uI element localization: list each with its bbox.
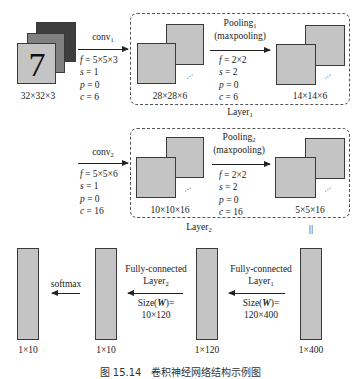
- layer2-pool-size: 5×5×16: [295, 206, 325, 216]
- fc2-label: Fully-connected Layer2: [125, 264, 187, 289]
- conv1-params: f = 5×5×3 s = 1 p = 0 c = 6: [80, 54, 118, 104]
- layer1-pool-size: 14×14×6: [293, 92, 327, 102]
- conv2-arrow: [78, 163, 128, 164]
- layer2-label: Layer2: [186, 223, 211, 234]
- pool1-params: f = 2×2 s = 2 p = 0 c = 6: [219, 54, 247, 104]
- pool2-label: Pooling2: [223, 133, 256, 144]
- fc1-arrow: [229, 293, 285, 294]
- fc1-output-vector: [196, 248, 218, 340]
- figure-caption: 图 15.14 卷积神经网络结构示例图: [100, 364, 262, 379]
- layer1-pool-map-front: [276, 44, 316, 85]
- flattened-vector-size: 1×400: [299, 346, 323, 356]
- fc2-output-size: 1×10: [96, 346, 116, 356]
- fc1-weight-size: Size(W)= 120×400: [243, 298, 280, 321]
- softmax-label: softmax: [51, 280, 82, 290]
- pool2-params: f = 2×2 s = 2 p = 0 c = 16: [219, 169, 247, 219]
- layer1-label: Layer1: [227, 108, 252, 119]
- pool1-type: (maxpooling): [214, 32, 266, 42]
- layer1-conv-size: 28×28×6: [153, 92, 187, 102]
- softmax-arrow: [52, 293, 80, 294]
- fc1-label: Fully-connected Layer1: [230, 264, 292, 289]
- layer2-conv-size: 10×10×16: [150, 206, 189, 216]
- conv1-label: conv1: [92, 33, 114, 44]
- fc2-weight-size: Size(W)= 10×120: [138, 298, 175, 321]
- input-digit: 7: [29, 48, 46, 82]
- pool2-type: (maxpooling): [213, 146, 265, 156]
- layer2-pool-map-front: [275, 157, 316, 198]
- fc1-output-size: 1×120: [195, 346, 219, 356]
- flattened-vector: [300, 248, 322, 340]
- layer1-conv-map-front: [137, 43, 176, 84]
- pool2-arrow: [212, 164, 270, 165]
- pool1-label: Pooling1: [224, 19, 257, 30]
- equivalence-mark: ||: [309, 223, 313, 234]
- conv1-arrow: [78, 49, 128, 50]
- layer2-conv-map-front: [136, 157, 176, 198]
- input-size-label: 32×32×3: [21, 92, 55, 102]
- conv2-params: f = 5×5×6 s = 1 p = 0 c = 16: [80, 168, 118, 218]
- output-vector: [17, 248, 39, 340]
- fc2-output-vector: [95, 248, 117, 340]
- fc2-arrow: [128, 293, 183, 294]
- conv2-label: conv2: [92, 148, 114, 159]
- output-vector-size: 1×10: [18, 346, 38, 356]
- pool1-arrow: [210, 50, 270, 51]
